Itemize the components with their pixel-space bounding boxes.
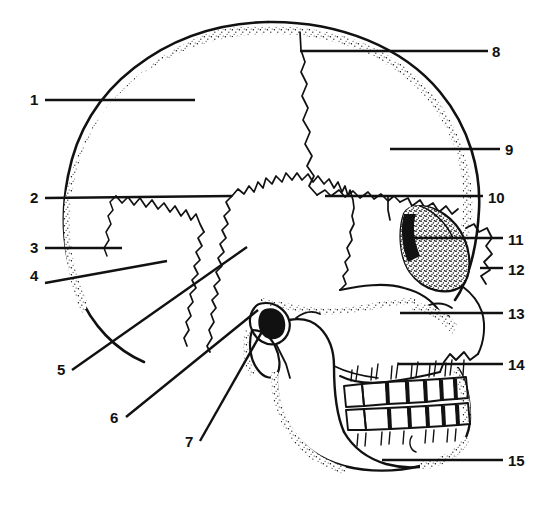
leader-line-6 — [126, 310, 258, 417]
label-number-12[interactable]: 12 — [508, 262, 524, 277]
label-number-9[interactable]: 9 — [505, 142, 513, 157]
skull-illustration — [0, 0, 554, 526]
label-number-7[interactable]: 7 — [185, 434, 193, 449]
label-number-10[interactable]: 10 — [488, 190, 504, 205]
leader-line-2 — [45, 196, 232, 198]
label-number-8[interactable]: 8 — [492, 44, 500, 59]
skull-figure: 123456789101112131415 — [0, 0, 554, 526]
label-number-11[interactable]: 11 — [508, 232, 523, 247]
label-number-14[interactable]: 14 — [508, 357, 524, 372]
label-number-3[interactable]: 3 — [30, 240, 38, 255]
label-number-2[interactable]: 2 — [30, 190, 38, 205]
label-number-15[interactable]: 15 — [508, 453, 524, 468]
label-number-13[interactable]: 13 — [508, 306, 524, 321]
label-number-5[interactable]: 5 — [57, 362, 65, 377]
label-number-4[interactable]: 4 — [30, 268, 38, 283]
leader-line-4 — [45, 261, 167, 283]
label-number-6[interactable]: 6 — [110, 410, 118, 425]
leader-line-5 — [72, 247, 247, 370]
label-number-1[interactable]: 1 — [30, 92, 38, 107]
